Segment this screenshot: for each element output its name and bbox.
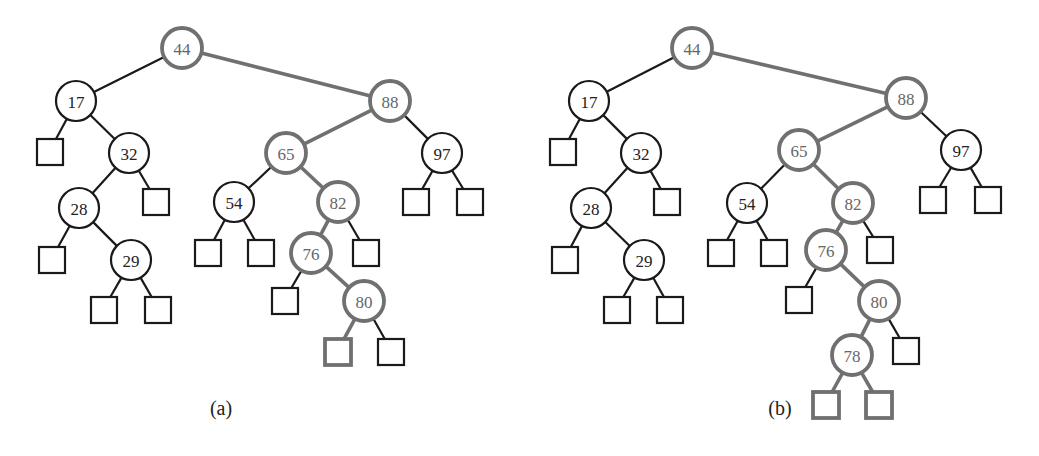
edge-80-80L bbox=[344, 319, 355, 339]
edge-88-65 bbox=[304, 110, 372, 144]
node-label: 44 bbox=[684, 40, 702, 59]
edge-76-76L bbox=[291, 271, 301, 288]
external-leaf-node bbox=[893, 338, 919, 364]
edge-44-17 bbox=[607, 57, 674, 92]
tree-node-76: 76 bbox=[291, 233, 331, 273]
tree-node-54: 54 bbox=[727, 183, 767, 223]
edge-44-88 bbox=[201, 53, 370, 96]
edge-65-82 bbox=[813, 164, 838, 189]
external-leaf-node bbox=[708, 240, 734, 266]
external-leaf-node bbox=[654, 189, 680, 215]
edge-78-78R bbox=[862, 373, 873, 392]
node-label: 65 bbox=[791, 142, 808, 161]
node-label: 54 bbox=[226, 194, 244, 213]
node-label: 32 bbox=[121, 145, 138, 164]
edge-88-97 bbox=[404, 115, 428, 139]
node-label: 76 bbox=[303, 245, 320, 264]
tree-node-29: 29 bbox=[111, 240, 151, 280]
edge-82-82R bbox=[863, 220, 873, 237]
tree-node-97: 97 bbox=[941, 130, 981, 170]
external-leaf-node bbox=[195, 240, 221, 266]
tree-node-28: 28 bbox=[59, 188, 99, 228]
node-label: 65 bbox=[278, 145, 295, 164]
tree-node-78: 78 bbox=[832, 335, 872, 375]
external-leaf-node bbox=[920, 187, 946, 213]
edge-65-54 bbox=[761, 164, 785, 188]
node-label: 88 bbox=[898, 90, 915, 109]
external-leaf-node bbox=[761, 240, 787, 266]
edge-97-97R bbox=[452, 170, 463, 189]
edge-17-17L bbox=[56, 119, 67, 139]
node-label: 80 bbox=[871, 293, 888, 312]
external-leaf-node bbox=[604, 297, 630, 323]
edge-28-29 bbox=[605, 222, 629, 246]
tree-node-65: 65 bbox=[266, 133, 306, 173]
node-label: 29 bbox=[123, 252, 140, 271]
external-leaf-node bbox=[145, 297, 171, 323]
node-label: 82 bbox=[845, 195, 862, 214]
tree-node-17: 17 bbox=[569, 81, 609, 121]
edge-29-29R bbox=[141, 278, 152, 297]
node-label: 82 bbox=[330, 194, 347, 213]
edge-82-76 bbox=[836, 220, 843, 232]
edge-78-78L bbox=[832, 373, 843, 392]
tree-node-80: 80 bbox=[344, 281, 384, 321]
binary-search-tree-diagram: 441732282988655482768097 441732282988655… bbox=[0, 0, 1039, 456]
node-label: 80 bbox=[356, 293, 373, 312]
edge-82-76 bbox=[320, 220, 328, 236]
node-label: 44 bbox=[174, 40, 192, 59]
external-leaf-node bbox=[37, 139, 63, 165]
edge-44-88 bbox=[711, 53, 886, 94]
external-leaf-node bbox=[248, 240, 274, 266]
external-leaf-node bbox=[813, 392, 839, 418]
tree-node-76: 76 bbox=[806, 230, 846, 270]
node-label: 17 bbox=[68, 93, 86, 112]
node-label: 29 bbox=[636, 252, 653, 271]
external-leaf-node bbox=[353, 240, 379, 266]
edge-80-80R bbox=[889, 319, 900, 338]
node-label: 28 bbox=[583, 200, 600, 219]
tree-node-32: 32 bbox=[109, 133, 149, 173]
edge-29-29R bbox=[653, 278, 664, 297]
edge-76-80 bbox=[326, 266, 349, 287]
edge-88-65 bbox=[817, 107, 888, 142]
external-leaf-node bbox=[325, 339, 351, 365]
edge-80-80R bbox=[373, 319, 384, 339]
edge-82-82R bbox=[348, 220, 360, 240]
edge-65-82 bbox=[301, 167, 324, 189]
edge-76-80 bbox=[840, 264, 864, 287]
edge-97-97L bbox=[940, 167, 952, 187]
tree-a: 441732282988655482768097 bbox=[37, 28, 483, 365]
external-leaf-node bbox=[866, 392, 892, 418]
edge-32-32R bbox=[650, 171, 660, 189]
tree-node-32: 32 bbox=[621, 133, 661, 173]
external-leaf-node bbox=[91, 297, 117, 323]
external-leaf-node bbox=[272, 288, 298, 314]
node-label: 97 bbox=[953, 142, 971, 161]
tree-node-29: 29 bbox=[624, 240, 664, 280]
edge-32-28 bbox=[604, 168, 627, 193]
edge-28-29 bbox=[93, 222, 117, 246]
external-leaf-node bbox=[378, 339, 404, 365]
edge-54-54L bbox=[214, 220, 225, 240]
external-leaf-node bbox=[39, 247, 65, 273]
node-label: 28 bbox=[71, 200, 88, 219]
tree-node-44: 44 bbox=[162, 28, 202, 68]
edge-54-54R bbox=[243, 220, 254, 240]
caption-b: (b) bbox=[768, 397, 791, 420]
external-leaf-node bbox=[552, 247, 578, 273]
tree-node-88: 88 bbox=[370, 81, 410, 121]
edge-97-97R bbox=[971, 168, 982, 187]
node-label: 97 bbox=[434, 145, 452, 164]
external-leaf-node bbox=[550, 139, 576, 165]
node-label: 78 bbox=[844, 347, 861, 366]
external-leaf-node bbox=[786, 287, 812, 313]
caption-a: (a) bbox=[210, 397, 232, 420]
tree-node-82: 82 bbox=[318, 182, 358, 222]
edge-65-54 bbox=[249, 167, 272, 189]
external-leaf-node bbox=[457, 189, 483, 215]
edge-29-29L bbox=[623, 278, 634, 297]
external-leaf-node bbox=[867, 237, 893, 263]
edge-44-17 bbox=[94, 57, 164, 92]
external-leaf-node bbox=[657, 297, 683, 323]
